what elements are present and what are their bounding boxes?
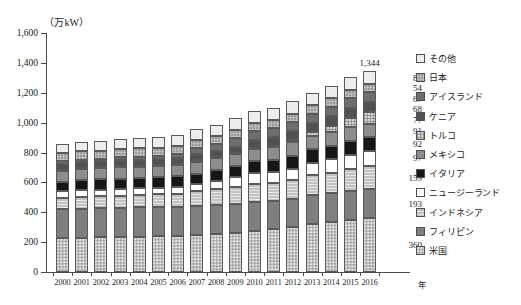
bar-segment-2012-インドネシア xyxy=(286,180,299,199)
bar-segment-2007-ニュージーランド xyxy=(190,184,203,191)
x-axis-tick xyxy=(322,272,323,276)
y-axis-tick-label: 600 xyxy=(24,177,38,187)
bar-segment-2002-インドネシア xyxy=(94,196,107,208)
legend-item-メキシコ[interactable]: メキシコ xyxy=(416,145,521,164)
legend-item-label: ニュージーランド xyxy=(429,186,500,199)
x-axis-tick-label: 2013 xyxy=(304,278,320,287)
bar-2009 xyxy=(229,33,242,272)
bar-segment-2016-日本 xyxy=(363,84,376,92)
y-axis-tick-label: 1,400 xyxy=(17,58,38,68)
bar-segment-2015-イタリア xyxy=(344,141,357,155)
bar-segment-2016-フィリピン xyxy=(363,189,376,218)
bar-segment-2016-その他 xyxy=(363,71,376,84)
x-axis-tick xyxy=(72,272,73,276)
bar-segment-2011-日本 xyxy=(267,120,280,128)
bar-segment-2010-イタリア xyxy=(248,161,261,173)
legend-item-フィリピン[interactable]: フィリピン xyxy=(416,222,521,241)
x-axis-tick-label: 2007 xyxy=(189,278,205,287)
bar-segment-2006-イタリア xyxy=(171,176,184,187)
bar-segment-2001-メキシコ xyxy=(75,169,88,180)
bar-segment-2005-米国 xyxy=(152,236,165,272)
bar-segment-2012-フィリピン xyxy=(286,199,299,227)
x-axis-tick xyxy=(130,272,131,276)
bar-segment-2004-メキシコ xyxy=(133,167,146,178)
bar-segment-2010-日本 xyxy=(248,123,261,131)
bar-segment-2006-米国 xyxy=(171,236,184,272)
bar-segment-2003-ニュージーランド xyxy=(114,189,127,196)
bar-segment-2013-アイスランド xyxy=(306,114,319,124)
legend-swatch-icon xyxy=(416,150,425,159)
chart-legend: その他日本アイスランドケニアトルコメキシコイタリアニュージーランドインドネシアフ… xyxy=(416,49,521,260)
bar-segment-2015-日本 xyxy=(344,90,357,98)
bar-segment-2005-フィリピン xyxy=(152,207,165,236)
geothermal-capacity-stacked-bar-chart: （万kW） 1,6001,4001,2001,0008006004002000 … xyxy=(0,0,521,305)
bar-segment-2016-トルコ xyxy=(363,112,376,124)
bar-segment-2011-イタリア xyxy=(267,160,280,172)
x-axis-tick-label: 2000 xyxy=(54,278,70,287)
legend-item-label: トルコ xyxy=(429,129,456,142)
x-axis-tick-label: 2003 xyxy=(112,278,128,287)
bar-segment-2005-インドネシア xyxy=(152,194,165,207)
bar-segment-2007-米国 xyxy=(190,235,203,272)
bar-segment-2011-フィリピン xyxy=(267,201,280,229)
x-axis-tick xyxy=(303,272,304,276)
bar-2014 xyxy=(325,33,338,272)
bar-segment-2009-ニュージーランド xyxy=(229,177,242,186)
legend-swatch-icon xyxy=(416,208,425,217)
bar-2007 xyxy=(190,33,203,272)
legend-item-ニュージーランド[interactable]: ニュージーランド xyxy=(416,183,521,202)
legend-item-その他[interactable]: その他 xyxy=(416,49,521,68)
legend-swatch-icon xyxy=(416,131,425,140)
legend-item-アイスランド[interactable]: アイスランド xyxy=(416,87,521,106)
bar-segment-2014-ケニア xyxy=(325,116,338,126)
bar-segment-2007-その他 xyxy=(190,129,203,140)
bar-segment-2015-ケニア xyxy=(344,108,357,118)
bar-segment-2002-その他 xyxy=(94,141,107,151)
bar-segment-2006-ニュージーランド xyxy=(171,187,184,194)
x-axis-tick-label: 2010 xyxy=(246,278,262,287)
legend-swatch-icon xyxy=(416,92,425,101)
bar-segment-2000-日本 xyxy=(56,153,69,161)
x-axis-line xyxy=(46,272,410,273)
legend-item-label: その他 xyxy=(429,52,456,65)
legend-item-label: フィリピン xyxy=(429,225,474,238)
bar-segment-2004-イタリア xyxy=(133,178,146,189)
bar-segment-2013-その他 xyxy=(306,93,319,106)
bar-segment-2004-フィリピン xyxy=(133,207,146,236)
bar-segment-2000-イタリア xyxy=(56,182,69,191)
bar-2012 xyxy=(286,33,299,272)
y-axis-tick-label: 800 xyxy=(24,148,38,158)
legend-item-イタリア[interactable]: イタリア xyxy=(416,164,521,183)
x-axis-tick-label: 2004 xyxy=(131,278,147,287)
bar-segment-2007-イタリア xyxy=(190,174,203,185)
legend-swatch-icon xyxy=(416,54,425,63)
legend-swatch-icon xyxy=(416,227,425,236)
legend-item-日本[interactable]: 日本 xyxy=(416,68,521,87)
x-axis-tick xyxy=(283,272,284,276)
legend-item-ケニア[interactable]: ケニア xyxy=(416,107,521,126)
bar-segment-2001-日本 xyxy=(75,151,88,159)
x-axis-tick xyxy=(111,272,112,276)
bar-segment-2001-フィリピン xyxy=(75,209,88,238)
x-axis-tick xyxy=(187,272,188,276)
bar-segment-2010-アイスランド xyxy=(248,131,261,140)
x-axis-tick xyxy=(226,272,227,276)
bar-segment-2015-ニュージーランド xyxy=(344,155,357,169)
bar-segment-2008-その他 xyxy=(210,125,223,137)
bar-segment-2011-ニュージーランド xyxy=(267,172,280,183)
bar-segment-2011-アイスランド xyxy=(267,128,280,137)
legend-item-インドネシア[interactable]: インドネシア xyxy=(416,203,521,222)
bar-segment-2010-その他 xyxy=(248,111,261,123)
y-axis-tick-labels: 1,6001,4001,2001,0008006004002000 xyxy=(0,0,38,305)
legend-item-米国[interactable]: 米国 xyxy=(416,241,521,260)
x-axis-tick-label: 2011 xyxy=(266,278,282,287)
bar-segment-2003-その他 xyxy=(114,139,127,149)
bar-segment-2012-メキシコ xyxy=(286,142,299,155)
bar-segment-2002-フィリピン xyxy=(94,208,107,237)
bar-segment-2013-フィリピン xyxy=(306,195,319,223)
legend-item-トルコ[interactable]: トルコ xyxy=(416,126,521,145)
bar-segment-2008-イタリア xyxy=(210,170,223,181)
legend-item-label: 日本 xyxy=(429,71,447,84)
bar-segment-2014-イタリア xyxy=(325,146,338,160)
bar-segment-2002-日本 xyxy=(94,151,107,159)
